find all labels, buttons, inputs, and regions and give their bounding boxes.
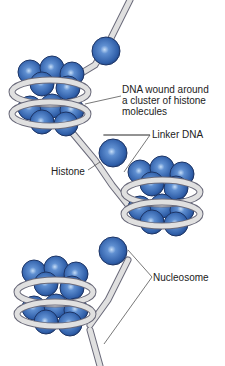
leader-dna-wound: [85, 96, 121, 104]
linker-histone: [99, 139, 127, 167]
label-dna-wound: DNA wound around a cluster of histone mo…: [122, 84, 209, 117]
label-line: a cluster of histone: [122, 95, 209, 106]
linker-histone: [92, 37, 120, 65]
nucleosome-diagram: [0, 0, 225, 366]
label-histone: Histone: [51, 166, 85, 177]
label-line: molecules: [122, 106, 209, 117]
nucleosome-core: [17, 256, 93, 336]
nucleosome-core: [12, 56, 88, 136]
nucleosome-core: [124, 156, 200, 236]
label-nucleosome: Nucleosome: [153, 272, 209, 283]
label-linker-dna: Linker DNA: [152, 129, 203, 140]
linker-histone: [99, 237, 127, 265]
label-line: DNA wound around: [122, 84, 209, 95]
